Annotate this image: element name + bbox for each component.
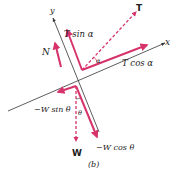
w-sin-theta-vector bbox=[58, 86, 76, 92]
alpha-label: α bbox=[96, 57, 101, 65]
normal-label: N bbox=[41, 47, 51, 57]
t-sin-alpha-label: T sin α bbox=[64, 29, 94, 39]
weight-label: W bbox=[72, 148, 82, 158]
normal-vector bbox=[55, 43, 61, 67]
t-cos-alpha-label: T cos α bbox=[122, 58, 153, 68]
x-axis-label: x bbox=[165, 37, 170, 47]
w-sin-theta-label: −W sin θ bbox=[34, 105, 71, 114]
tension-label: T bbox=[136, 3, 143, 13]
theta-label: θ bbox=[78, 109, 82, 117]
force-diagram: x y T T cos α T sin α α N W −W sin θ θ −… bbox=[0, 0, 172, 171]
y-axis-label: y bbox=[49, 6, 55, 15]
figure-caption: (b) bbox=[88, 160, 99, 169]
w-cos-theta-label: −W cos θ bbox=[96, 143, 134, 152]
